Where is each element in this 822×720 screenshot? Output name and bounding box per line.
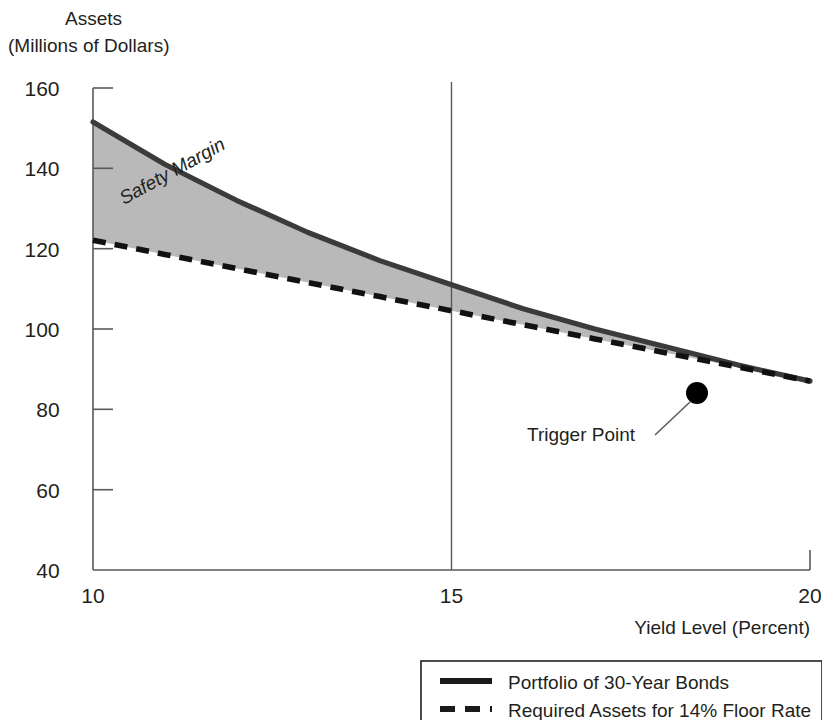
y-tick-label-40: 40 [36, 559, 59, 582]
chart-canvas: Assets (Millions of Dollars) 160 140 120… [0, 0, 822, 720]
y-tick-label-160: 160 [24, 77, 59, 100]
y-tick-label-80: 80 [36, 398, 59, 421]
trigger-point-leader-line [655, 402, 690, 435]
chart-title-line1: Assets [65, 8, 122, 29]
chart-container: Assets (Millions of Dollars) 160 140 120… [0, 0, 822, 720]
y-tick-label-140: 140 [24, 157, 59, 180]
x-tick-label-10: 10 [81, 584, 104, 607]
chart-legend: Portfolio of 30-Year Bonds Required Asse… [421, 661, 822, 720]
chart-title-line2: (Millions of Dollars) [8, 35, 170, 56]
annotation-trigger-point: Trigger Point [527, 424, 636, 445]
legend-label-required-assets: Required Assets for 14% Floor Rate [508, 700, 811, 720]
x-axis-title: Yield Level (Percent) [634, 617, 810, 638]
y-tick-label-120: 120 [24, 238, 59, 261]
y-tick-label-60: 60 [36, 479, 59, 502]
x-tick-label-20: 20 [798, 584, 821, 607]
x-tick-label-15: 15 [440, 584, 463, 607]
trigger-point-marker [686, 382, 708, 404]
legend-label-portfolio: Portfolio of 30-Year Bonds [508, 672, 729, 693]
y-tick-label-100: 100 [24, 318, 59, 341]
